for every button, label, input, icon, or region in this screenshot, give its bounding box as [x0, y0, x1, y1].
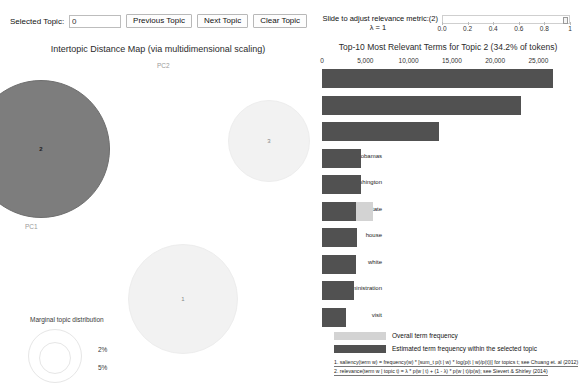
topic-bubble-1[interactable]: 1	[128, 244, 238, 354]
slider-tick-label: 0.0	[437, 25, 446, 32]
x-axis-tick-label: 10,000	[399, 57, 419, 64]
topic-bubble-2[interactable]: 2	[0, 80, 110, 218]
selected-topic-input[interactable]	[69, 15, 121, 28]
axis-label-pc2: PC2	[157, 62, 170, 69]
topic-bubble-label: 3	[267, 138, 270, 144]
previous-topic-button[interactable]: Previous Topic	[126, 14, 192, 28]
barchart-title: Top-10 Most Relevant Terms for Topic 2 (…	[316, 42, 580, 52]
top-terms-barchart-panel: Top-10 Most Relevant Terms for Topic 2 (…	[316, 40, 580, 379]
slider-tick-label: 0.2	[463, 25, 472, 32]
slider-tick-label: 0.4	[489, 25, 498, 32]
bar-topic-frequency	[322, 175, 361, 194]
legend-row-topic: Estimated term frequency within the sele…	[334, 344, 537, 353]
lambda-value-label: λ = 1	[318, 23, 438, 32]
footnote-saliency: 1. saliency(term w) = frequency(w) * [su…	[334, 359, 578, 367]
bar-topic-frequency	[322, 69, 553, 88]
bar-row[interactable]: obama	[316, 67, 580, 89]
bar-topic-frequency	[322, 149, 361, 168]
topic-bubble-label: 1	[181, 296, 184, 302]
selected-topic-label: Selected Topic:	[10, 17, 64, 26]
x-axis-tick-label: 0	[320, 57, 324, 64]
relevance-slider-handle[interactable]	[563, 17, 568, 24]
x-axis-tick-label: 25,000	[528, 57, 548, 64]
bar-topic-frequency	[322, 228, 357, 247]
footnote-relevance: 2. relevance(term w | topic t) = λ * p(w…	[334, 368, 548, 376]
clear-topic-button[interactable]: Clear Topic	[253, 14, 307, 28]
bar-row[interactable]: washington	[316, 173, 580, 195]
relevance-slider-caption: Slide to adjust relevance metric:(2)	[318, 14, 438, 23]
slider-tick-label: 0.8	[540, 25, 549, 32]
intertopic-map-title: Intertopic Distance Map (via multidimens…	[0, 44, 316, 54]
bar-row[interactable]: obamas	[316, 147, 580, 169]
legend-label-overall: Overall term frequency	[392, 332, 458, 339]
bar-row[interactable]: state	[316, 200, 580, 222]
axis-label-pc1: PC1	[25, 223, 38, 230]
bar-row[interactable]: barack	[316, 120, 580, 142]
marginal-topic-distribution-legend: Marginal topic distribution 2% 5%	[22, 316, 142, 386]
legend-swatch-topic	[334, 345, 386, 353]
slider-tick-label: 1	[568, 25, 572, 32]
bar-topic-frequency	[322, 122, 439, 141]
bar-topic-frequency	[322, 281, 354, 300]
bar-topic-frequency	[322, 202, 356, 221]
relevance-slider-ticks: 0.00.20.40.60.81	[442, 25, 570, 35]
intertopic-distance-map: Intertopic Distance Map (via multidimens…	[0, 40, 316, 379]
topic-bubble-label: 2	[39, 146, 42, 152]
topic-bubble-3[interactable]: 3	[228, 100, 310, 182]
marginal-distribution-title: Marginal topic distribution	[30, 316, 104, 323]
bar-row[interactable]: administration	[316, 279, 580, 301]
barchart-legend: Overall term frequency Estimated term fr…	[320, 323, 580, 379]
barchart-x-axis: 05,00010,00015,00020,00025,000	[316, 57, 580, 67]
bar-topic-frequency	[322, 255, 356, 274]
x-axis-tick-label: 20,000	[485, 57, 505, 64]
marginal-pct-5: 5%	[98, 364, 107, 371]
x-axis-tick-label: 5,000	[357, 57, 373, 64]
bar-row[interactable]: house	[316, 226, 580, 248]
bar-row[interactable]: president	[316, 94, 580, 116]
bar-row[interactable]: white	[316, 253, 580, 275]
topic-toolbar: Selected Topic: Previous Topic Next Topi…	[10, 10, 310, 32]
next-topic-button[interactable]: Next Topic	[197, 14, 248, 28]
slider-tick-label: 0.6	[514, 25, 523, 32]
legend-swatch-overall	[334, 332, 386, 340]
legend-label-topic: Estimated term frequency within the sele…	[392, 345, 537, 352]
barchart-bars: obamapresidentbarackobamaswashingtonstat…	[316, 67, 580, 352]
bar-topic-frequency	[322, 96, 521, 115]
legend-row-overall: Overall term frequency	[334, 331, 458, 340]
relevance-slider-group: Slide to adjust relevance metric:(2) λ =…	[318, 6, 572, 40]
marginal-pct-2: 2%	[98, 346, 107, 353]
marginal-circle-small	[39, 342, 71, 374]
relevance-slider-track[interactable]	[442, 15, 570, 24]
x-axis-tick-label: 15,000	[442, 57, 462, 64]
